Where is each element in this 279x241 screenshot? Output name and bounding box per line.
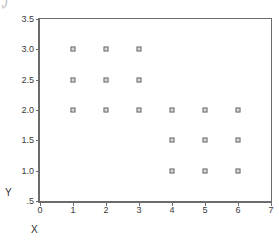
data-point-marker — [137, 77, 142, 82]
y-tick-label: 3.5 — [21, 15, 34, 24]
data-point-marker — [236, 108, 241, 113]
x-tick-label: 1 — [70, 206, 75, 215]
y-tick-mark — [36, 140, 40, 141]
data-point-marker — [104, 47, 109, 52]
data-point-marker — [71, 47, 76, 52]
y-tick-mark — [36, 171, 40, 172]
x-tick-label: 7 — [268, 206, 273, 215]
x-tick-label: 6 — [235, 206, 240, 215]
x-tick-label: 5 — [202, 206, 207, 215]
data-point-marker — [71, 108, 76, 113]
data-point-marker — [236, 168, 241, 173]
data-point-marker — [104, 108, 109, 113]
plot-area: .51.01.52.02.53.03.5 01234567 — [38, 18, 272, 203]
scan-artifact-glyph: ,) — [1, 0, 7, 10]
x-tick-label: 0 — [37, 206, 42, 215]
y-tick-mark — [36, 80, 40, 81]
data-point-marker — [203, 108, 208, 113]
data-point-marker — [137, 47, 142, 52]
y-tick-label: 2.5 — [21, 75, 34, 84]
data-point-marker — [203, 138, 208, 143]
y-tick-mark — [36, 49, 40, 50]
data-point-marker — [104, 77, 109, 82]
scatter-plot-figure: ,) .51.01.52.02.53.03.5 01234567 Y X — [0, 0, 279, 241]
y-tick-label: 3.0 — [21, 45, 34, 54]
y-axis-title: Y — [5, 188, 12, 198]
y-tick-label: .5 — [26, 197, 34, 206]
data-point-marker — [170, 108, 175, 113]
data-point-marker — [170, 138, 175, 143]
data-point-marker — [137, 108, 142, 113]
data-point-marker — [203, 168, 208, 173]
x-tick-label: 4 — [169, 206, 174, 215]
data-point-marker — [236, 138, 241, 143]
data-point-marker — [170, 168, 175, 173]
y-tick-label: 1.5 — [21, 136, 34, 145]
x-axis-title: X — [31, 225, 38, 235]
y-tick-label: 1.0 — [21, 166, 34, 175]
y-tick-label: 2.0 — [21, 106, 34, 115]
y-tick-mark — [36, 110, 40, 111]
x-tick-label: 3 — [136, 206, 141, 215]
data-point-marker — [71, 77, 76, 82]
y-tick-mark — [36, 19, 40, 20]
x-tick-label: 2 — [103, 206, 108, 215]
